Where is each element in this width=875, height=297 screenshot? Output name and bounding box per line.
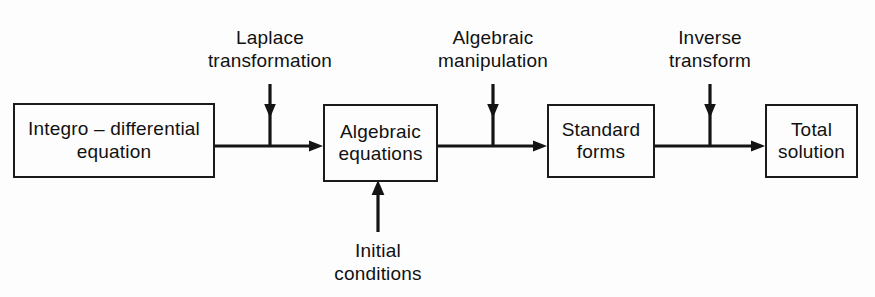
- block-integro-differential-equation[interactable]: Integro – differential equation: [13, 103, 215, 178]
- annotation-line1: Algebraic: [403, 27, 583, 50]
- arrow-initial-conditions: [372, 180, 385, 232]
- block-total-solution[interactable]: Total solution: [765, 104, 858, 178]
- annotation-laplace-transformation: Laplace transformation: [180, 27, 360, 73]
- annotation-initial-conditions: Initial conditions: [288, 240, 468, 286]
- block-label-line2: solution: [778, 141, 845, 163]
- block-algebraic-equations[interactable]: Algebraic equations: [323, 104, 438, 182]
- annotation-line1: Laplace: [180, 27, 360, 50]
- arrow-algebraic-manipulation: [487, 84, 499, 147]
- block-standard-forms[interactable]: Standard forms: [547, 104, 655, 178]
- block-label-line1: Standard: [562, 119, 641, 141]
- annotation-algebraic-manipulation: Algebraic manipulation: [403, 27, 583, 73]
- block-label-line1: Total: [791, 119, 832, 141]
- annotation-line2: conditions: [288, 263, 468, 286]
- annotation-line2: manipulation: [403, 50, 583, 73]
- arrow-laplace-transformation: [264, 84, 276, 147]
- annotation-line2: transform: [625, 50, 795, 73]
- annotation-inverse-transform: Inverse transform: [625, 27, 795, 73]
- annotation-line1: Inverse: [625, 27, 795, 50]
- arrow-inverse-transform: [704, 84, 716, 147]
- annotation-line1: Initial: [288, 240, 468, 263]
- block-label-line1: Algebraic: [340, 121, 421, 143]
- block-label-line2: equations: [338, 143, 422, 165]
- annotation-line2: transformation: [180, 50, 360, 73]
- block-diagram: Integro – differential equation Algebrai…: [0, 0, 875, 297]
- block-label-line2: forms: [577, 141, 626, 163]
- block-label-line1: Integro – differential: [28, 118, 200, 140]
- block-label-line2: equation: [77, 141, 152, 163]
